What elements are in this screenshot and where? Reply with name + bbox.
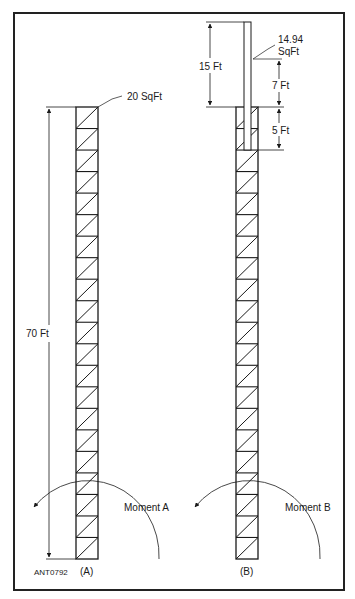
moment-a: Moment A [34, 481, 169, 559]
mast-area-callout: 14.94 SqFt [253, 34, 303, 59]
mast [244, 22, 251, 150]
mast-area-label-line2: SqFt [278, 46, 299, 57]
tower-moment-diagram: 70 Ft 20 SqFt Moment A ANT0792 (A) 15 Ft… [0, 0, 355, 599]
mast-height-dimension: 15 Ft [199, 22, 244, 107]
tower-a [76, 107, 98, 559]
moment-b-label: Moment B [285, 502, 331, 513]
moment-a-arrow-icon [34, 481, 159, 559]
moment-a-label: Moment A [124, 502, 169, 513]
tower-a-height-label: 70 Ft [26, 328, 49, 339]
mast-height-label: 15 Ft [199, 61, 222, 72]
tower-a-area-label: 20 SqFt [127, 91, 162, 102]
upper-dim-label: 7 Ft [272, 80, 289, 91]
lower-dimension: 5 Ft [258, 109, 289, 150]
tower-b [236, 107, 258, 559]
tower-a-caption: (A) [80, 566, 93, 577]
mast-area-label-line1: 14.94 [278, 34, 303, 45]
upper-dimension: 7 Ft [258, 61, 289, 107]
figure-id: ANT0792 [34, 568, 68, 577]
tower-b-caption: (B) [240, 566, 253, 577]
lower-dim-label: 5 Ft [272, 125, 289, 136]
tower-a-area-callout: 20 SqFt [98, 91, 162, 107]
moment-b: Moment B [195, 481, 331, 559]
